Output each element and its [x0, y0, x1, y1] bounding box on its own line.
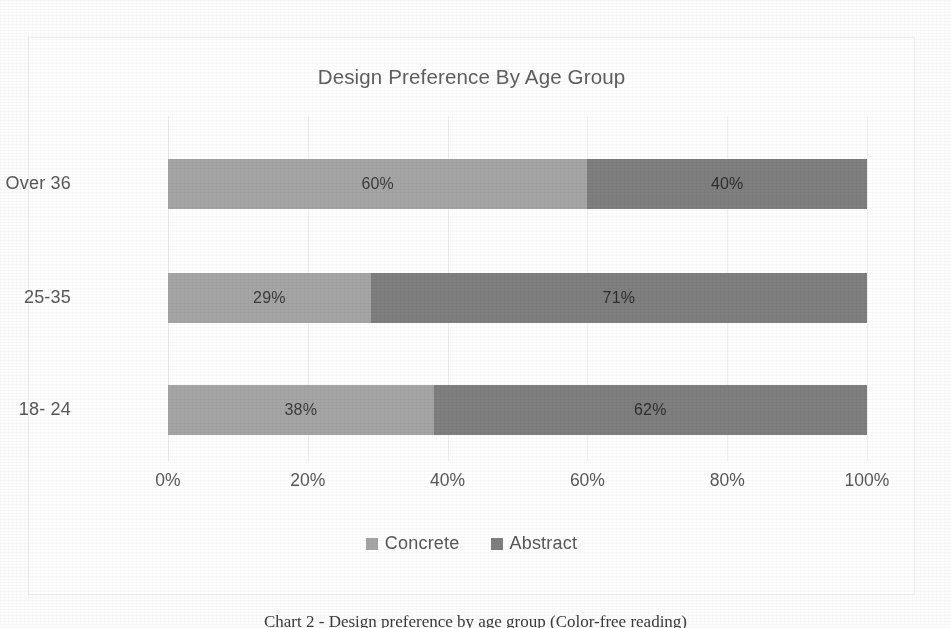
x-tick-0%: 0% — [155, 470, 180, 491]
bar-value-label: 29% — [253, 289, 286, 307]
category-label-0: Over 36 — [0, 173, 71, 194]
bar-value-label: 38% — [284, 401, 317, 419]
x-tick-60%: 60% — [570, 470, 605, 491]
category-label-2: 18- 24 — [0, 399, 71, 420]
chart-container: Design Preference By Age Group 60%40%29%… — [28, 37, 915, 595]
chart-legend: ConcreteAbstract — [29, 533, 914, 554]
bar-row[interactable]: 38%62% — [168, 385, 867, 435]
bar-row[interactable]: 29%71% — [168, 273, 867, 323]
legend-swatch-icon — [366, 538, 378, 550]
bar-row[interactable]: 60%40% — [168, 159, 867, 209]
category-label-1: 25-35 — [0, 287, 71, 308]
bar-segment-abstract[interactable]: 62% — [434, 385, 867, 435]
legend-item-concrete[interactable]: Concrete — [366, 533, 460, 554]
bar-segment-abstract[interactable]: 71% — [371, 273, 867, 323]
bar-value-label: 60% — [361, 175, 394, 193]
legend-item-abstract[interactable]: Abstract — [491, 533, 578, 554]
legend-swatch-icon — [491, 538, 503, 550]
x-tick-40%: 40% — [430, 470, 465, 491]
gridline-100pct — [867, 116, 868, 461]
x-tick-100%: 100% — [845, 470, 890, 491]
legend-label: Concrete — [385, 533, 460, 554]
bar-value-label: 62% — [634, 401, 667, 419]
plot-area: 60%40%29%71%38%62% — [168, 116, 867, 461]
x-axis-tick-labels: 0%20%40%60%80%100% — [168, 470, 867, 498]
bar-segment-abstract[interactable]: 40% — [587, 159, 867, 209]
figure-caption: Chart 2 - Design preference by age group… — [0, 612, 951, 628]
bar-segment-concrete[interactable]: 38% — [168, 385, 434, 435]
bar-segment-concrete[interactable]: 60% — [168, 159, 587, 209]
bar-value-label: 71% — [603, 289, 636, 307]
bar-value-label: 40% — [711, 175, 744, 193]
x-tick-20%: 20% — [290, 470, 325, 491]
bar-segment-concrete[interactable]: 29% — [168, 273, 371, 323]
chart-title: Design Preference By Age Group — [29, 65, 914, 89]
legend-label: Abstract — [510, 533, 578, 554]
x-tick-80%: 80% — [710, 470, 745, 491]
